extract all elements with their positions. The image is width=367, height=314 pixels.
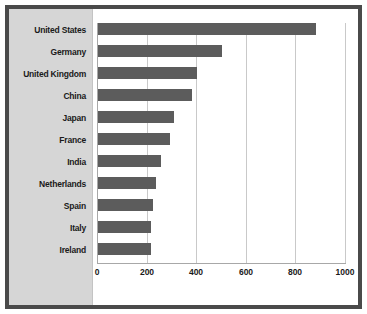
category-label-ireland: Ireland: [9, 244, 86, 256]
category-label-spain: Spain: [9, 200, 86, 212]
category-label-india: India: [9, 156, 86, 168]
category-label-italy: Italy: [9, 222, 86, 234]
bar-italy[interactable]: [98, 221, 151, 233]
bar-chart-figure: 02004006008001000 United StatesGermanyUn…: [5, 5, 362, 309]
category-label-japan: Japan: [9, 112, 86, 124]
category-label-germany: Germany: [9, 46, 86, 58]
category-label-china: China: [9, 90, 86, 102]
bar-france[interactable]: [98, 133, 170, 145]
chart-inner-area: 02004006008001000 United StatesGermanyUn…: [9, 9, 358, 305]
x-tick-label-0: 0: [95, 267, 100, 277]
gridline-600: [246, 23, 247, 263]
bar-spain[interactable]: [98, 199, 153, 211]
bar-netherlands[interactable]: [98, 177, 156, 189]
x-tick-label-400: 400: [189, 267, 203, 277]
x-tick-label-800: 800: [288, 267, 302, 277]
gridline-400: [196, 23, 197, 263]
bar-germany[interactable]: [98, 45, 222, 57]
bar-india[interactable]: [98, 155, 161, 167]
gridline-800: [295, 23, 296, 263]
bar-china[interactable]: [98, 89, 192, 101]
x-tick-label-200: 200: [140, 267, 154, 277]
x-tick-label-1000: 1000: [336, 267, 355, 277]
x-axis-baseline: [97, 263, 346, 264]
gridline-1000: [345, 23, 346, 263]
bar-united-states[interactable]: [98, 23, 316, 35]
plot-area: 02004006008001000: [93, 9, 358, 305]
category-label-netherlands: Netherlands: [9, 178, 86, 190]
bar-ireland[interactable]: [98, 243, 151, 255]
category-label-united-kingdom: United Kingdom: [9, 68, 86, 80]
bar-japan[interactable]: [98, 111, 174, 123]
category-label-united-states: United States: [9, 24, 86, 36]
x-tick-label-600: 600: [239, 267, 253, 277]
category-label-france: France: [9, 134, 86, 146]
bar-united-kingdom[interactable]: [98, 67, 197, 79]
